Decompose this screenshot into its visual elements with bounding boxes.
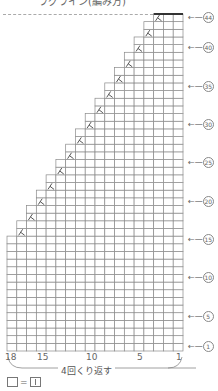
row-label-20: ←—20 bbox=[188, 196, 214, 207]
arrow-left-icon: ← bbox=[188, 342, 195, 351]
legend-equals: = bbox=[20, 377, 28, 387]
arrow-left-icon: ← bbox=[188, 273, 195, 282]
col-label-10: 10 bbox=[86, 352, 97, 362]
row-label-1: ←—1 bbox=[188, 341, 214, 352]
row-label-25: ←—25 bbox=[188, 157, 214, 168]
arrow-left-icon: ← bbox=[188, 13, 195, 22]
repeat-instruction: 4回くり返す bbox=[58, 364, 115, 377]
arrow-left-icon: ← bbox=[188, 312, 195, 321]
arrow-left-icon: ← bbox=[188, 197, 195, 206]
row-label-5: ←—5 bbox=[188, 311, 214, 322]
arrow-left-icon: ← bbox=[188, 43, 195, 52]
knit-stitch-icon bbox=[30, 377, 41, 387]
arrow-left-icon: ← bbox=[188, 158, 195, 167]
col-label-15: 15 bbox=[37, 352, 48, 362]
legend: = bbox=[7, 377, 41, 387]
row-label-30: ←—30 bbox=[188, 119, 214, 130]
row-label-15: ←—15 bbox=[188, 234, 214, 245]
col-label-18: 18 bbox=[5, 352, 16, 362]
row-label-10: ←—10 bbox=[188, 272, 214, 283]
arrow-left-icon: ← bbox=[188, 120, 195, 129]
arrow-left-icon: ← bbox=[188, 235, 195, 244]
row-label-35: ←—35 bbox=[188, 81, 214, 92]
col-label-5: 5 bbox=[137, 352, 143, 362]
col-label-1: 1 bbox=[176, 352, 182, 362]
empty-cell-icon bbox=[7, 377, 18, 387]
row-label-44: ←—44 bbox=[188, 12, 214, 23]
knitting-chart-grid bbox=[0, 0, 218, 391]
arrow-left-icon: ← bbox=[188, 82, 195, 91]
row-label-40: ←—40 bbox=[188, 42, 214, 53]
